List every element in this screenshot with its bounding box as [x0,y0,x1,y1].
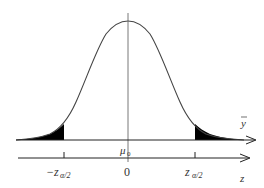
bell-curve [16,21,244,140]
left-critical-label: −z [46,165,59,179]
ybar-label: y [240,117,246,129]
left-tail-region [16,124,64,140]
left-critical-subscript: α/2 [60,171,70,180]
z-axis-label: z [239,172,245,184]
mean-subscript: 0 [127,150,131,158]
center-tick-label: 0 [124,165,130,179]
mean-label: μ [119,144,126,156]
right-critical-label: z [184,165,190,179]
normal-distribution-diagram: y z μ 0 0 −z α/2 z α/2 [0,0,264,188]
right-critical-subscript: α/2 [192,171,202,180]
